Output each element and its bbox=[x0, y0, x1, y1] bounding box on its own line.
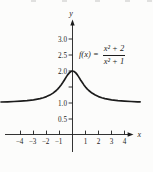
y-tick-label: 2.5 bbox=[58, 52, 67, 60]
x-axis-label: x bbox=[137, 130, 142, 139]
y-axis-label: y bbox=[68, 9, 73, 18]
y-axis-arrow-icon bbox=[70, 20, 74, 26]
x-tick-label: 4 bbox=[123, 138, 127, 146]
x-tick-label: 1 bbox=[84, 138, 88, 146]
x-tick-label: −1 bbox=[55, 138, 63, 146]
plot-svg: xy−4−3−2−112343.02.52.01.00.5 bbox=[0, 0, 153, 172]
function-curve bbox=[1, 71, 140, 102]
x-tick-label: −3 bbox=[29, 138, 37, 146]
x-tick-label: 2 bbox=[97, 138, 101, 146]
function-formula: f(x) = x² + 2 x² + 1 bbox=[79, 44, 125, 67]
formula-denominator: x² + 1 bbox=[103, 56, 126, 67]
x-tick-label: 3 bbox=[110, 138, 114, 146]
y-tick-label: 0.5 bbox=[58, 116, 67, 124]
formula-fraction: x² + 2 x² + 1 bbox=[103, 44, 126, 67]
formula-numerator: x² + 2 bbox=[103, 44, 126, 55]
formula-lhs: f(x) = bbox=[79, 50, 99, 60]
y-tick-label: 2.0 bbox=[58, 68, 67, 76]
x-tick-label: −4 bbox=[16, 138, 24, 146]
y-tick-label: 1.0 bbox=[58, 100, 67, 108]
x-tick-label: −2 bbox=[42, 138, 50, 146]
y-tick-label: 3.0 bbox=[58, 36, 67, 44]
function-graph-figure: xy−4−3−2−112343.02.52.01.00.5 f(x) = x² … bbox=[0, 0, 153, 172]
x-axis-arrow-icon bbox=[128, 132, 134, 136]
